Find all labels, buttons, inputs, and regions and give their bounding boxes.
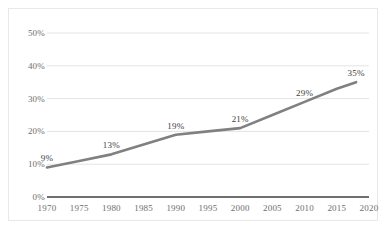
data-point-label: 29% bbox=[296, 88, 313, 98]
data-point-label: 21% bbox=[232, 114, 249, 124]
data-point-label: 9% bbox=[41, 153, 53, 163]
data-point-label: 35% bbox=[348, 68, 365, 78]
data-point-label: 19% bbox=[167, 121, 184, 131]
data-point-label: 13% bbox=[103, 140, 120, 150]
data-point-labels: 9%13%19%21%29%35% bbox=[0, 0, 390, 230]
